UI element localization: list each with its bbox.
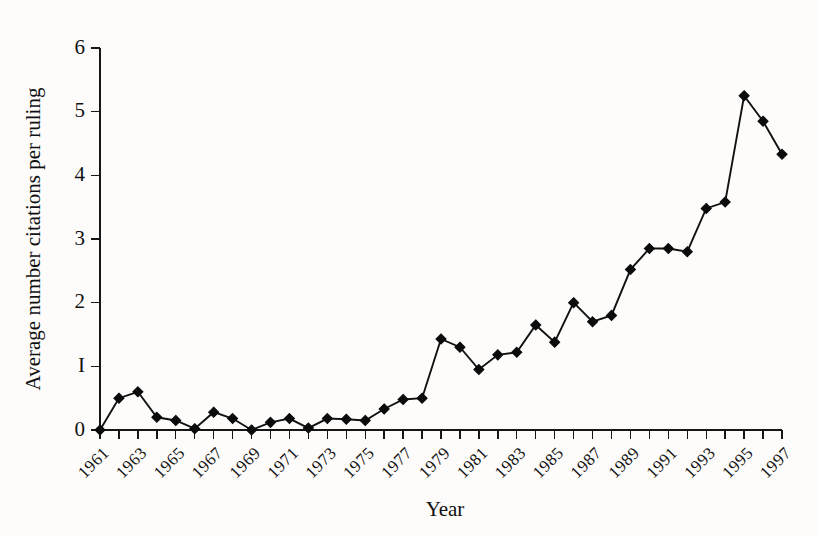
y-axis-tick-label: I: [78, 353, 85, 377]
line-chart-plot: 0I23456196119631965196719691971197319751…: [0, 0, 818, 536]
data-series-line: [100, 96, 782, 430]
x-axis-tick-label: 1995: [718, 443, 757, 482]
x-axis-tick-label: 1979: [415, 443, 454, 482]
data-point-marker: [228, 414, 238, 424]
data-point-marker: [682, 247, 692, 257]
data-point-marker: [114, 393, 124, 403]
x-axis-tick-label: 1997: [756, 443, 795, 482]
data-point-marker: [247, 425, 257, 435]
data-point-marker: [607, 310, 617, 320]
x-axis-tick-label: 1993: [680, 443, 719, 482]
x-axis-tick-label: 1989: [605, 443, 644, 482]
data-point-marker: [171, 415, 181, 425]
x-axis-tick-label: 1991: [643, 443, 682, 482]
x-axis-tick-label: 1969: [226, 443, 265, 482]
data-point-marker: [777, 149, 787, 159]
x-axis-tick-label: 1975: [339, 443, 378, 482]
data-point-marker: [720, 197, 730, 207]
data-point-marker: [398, 394, 408, 404]
data-point-marker: [436, 334, 446, 344]
x-axis-tick-label: 1965: [150, 443, 189, 482]
data-point-marker: [95, 425, 105, 435]
data-point-marker: [417, 393, 427, 403]
x-axis-title: Year: [426, 497, 465, 521]
y-axis-tick-label: 6: [75, 35, 86, 59]
data-point-marker: [303, 423, 313, 433]
x-axis-tick-label: 1977: [377, 443, 416, 482]
data-point-marker: [701, 203, 711, 213]
x-axis-tick-label: 1961: [74, 443, 113, 482]
y-axis-tick-label: 4: [75, 162, 86, 186]
x-axis-tick-label: 1985: [529, 443, 568, 482]
data-point-marker: [322, 414, 332, 424]
y-axis-tick-label: 0: [75, 417, 86, 441]
data-point-marker: [379, 404, 389, 414]
data-point-marker: [284, 414, 294, 424]
y-axis-title: Average number citations per ruling: [21, 87, 45, 390]
chart-figure: 0I23456196119631965196719691971197319751…: [0, 0, 818, 536]
y-axis-tick-label: 2: [75, 289, 86, 313]
y-axis-tick-label: 5: [75, 98, 86, 122]
x-axis-tick-label: 1971: [264, 443, 303, 482]
x-axis-tick-label: 1973: [302, 443, 341, 482]
x-axis-tick-label: 1987: [567, 443, 606, 482]
data-point-marker: [360, 415, 370, 425]
data-point-marker: [341, 414, 351, 424]
x-axis-tick-label: 1983: [491, 443, 530, 482]
y-axis-tick-label: 3: [75, 226, 86, 250]
data-point-marker: [663, 244, 673, 254]
x-axis-tick-label: 1981: [453, 443, 492, 482]
data-point-marker: [266, 417, 276, 427]
x-axis-tick-label: 1967: [188, 443, 227, 482]
x-axis-tick-label: 1963: [112, 443, 151, 482]
